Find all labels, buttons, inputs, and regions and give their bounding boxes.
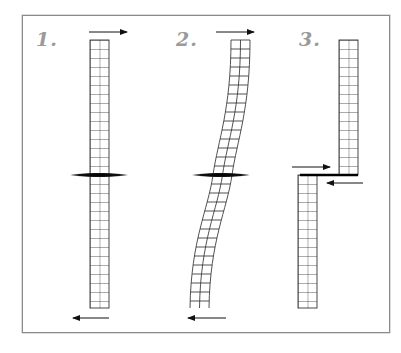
panel-3-strip-lower	[298, 175, 317, 308]
panel-3-strip-upper	[339, 40, 358, 175]
fault-diagram	[0, 0, 401, 353]
fault-line	[69, 173, 129, 177]
fault-line	[191, 173, 251, 177]
